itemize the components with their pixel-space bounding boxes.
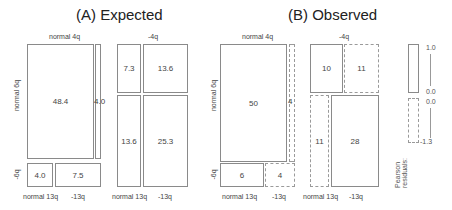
cell-a-n4-n6-n13: 48.4 — [27, 44, 94, 159]
cell-b-m4-n6-n13: 10 — [310, 44, 343, 93]
bottom-label-minus-13q: -13q — [71, 193, 85, 200]
legend-title: Pearson residuals: — [392, 150, 428, 196]
cell-a-n4-m6-n13: 4.0 — [27, 163, 53, 187]
legend-tick: 1.0 — [426, 44, 436, 51]
cell-b-m4-m6-n13: 11 — [310, 95, 329, 187]
col-header-minus-4q: -4q — [339, 33, 349, 40]
panel-title-expected: (A) Expected — [76, 6, 163, 23]
col-header-normal-4q: normal 4q — [242, 33, 273, 40]
cell-b-m4-m6-m13: 28 — [331, 95, 379, 187]
panel-title-observed: (B) Observed — [288, 6, 377, 23]
bottom-label-minus-13q: -13q — [349, 193, 363, 200]
col-header-minus-4q: -4q — [148, 33, 158, 40]
cell-a-m4-n6-n13: 7.3 — [117, 44, 141, 93]
cell-b-n4-n6-n13: 50 — [220, 44, 287, 162]
cell-a-m4-m6-n13: 13.6 — [117, 95, 141, 187]
cell-a-m4-n6-m13: 13.6 — [143, 44, 188, 93]
cell-b-n4-m6-m13: 4 — [265, 163, 295, 187]
cell-b-n4-m6-n13: 6 — [220, 163, 264, 187]
legend-negative-swatch — [408, 98, 419, 143]
legend-tick: -1.3 — [420, 138, 432, 145]
cell-b-m4-n6-m13: 11 — [344, 44, 379, 93]
legend-positive-swatch — [408, 44, 419, 93]
row-label-normal-6q: normal 6q — [13, 76, 20, 116]
legend-scale-line — [430, 54, 431, 86]
cell-a-n4-m6-m13: 7.5 — [55, 163, 101, 187]
bottom-label-normal-13q: normal 13q — [112, 193, 147, 200]
bottom-label-normal-13q: normal 13q — [303, 193, 338, 200]
legend-tick: 0.0 — [426, 88, 436, 95]
legend-scale-line — [430, 108, 431, 138]
cell-b-n4-n6-m13: 4 — [289, 44, 295, 162]
row-label-minus-6q: -6q — [210, 155, 217, 195]
cell-a-n4-n6-m13: 4.0 — [95, 44, 101, 159]
bottom-label-minus-13q: -13q — [272, 193, 286, 200]
col-header-normal-4q: normal 4q — [49, 33, 80, 40]
legend-tick: 0.0 — [426, 98, 436, 105]
bottom-label-normal-13q: normal 13q — [222, 193, 257, 200]
bottom-label-minus-13q: -13q — [158, 193, 172, 200]
bottom-label-normal-13q: normal 13q — [23, 193, 58, 200]
row-label-normal-6q: normal 6q — [210, 76, 217, 116]
row-label-minus-6q: -6q — [13, 155, 20, 195]
cell-a-m4-m6-m13: 25.3 — [143, 95, 188, 187]
